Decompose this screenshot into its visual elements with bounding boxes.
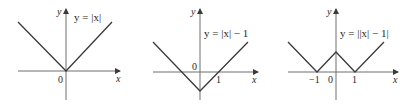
y-axis-label: y (56, 6, 62, 17)
y-axis-label: y (326, 6, 332, 17)
equation-label: y = ||x| − 1| (340, 27, 389, 39)
tick-label-neg-one: −1 (309, 74, 320, 85)
panel-abs-x-minus-1: y x 0 1 y = |x| − 1 (153, 6, 258, 100)
equation-label: y = |x| − 1 (204, 27, 248, 39)
origin-label: 0 (192, 61, 197, 72)
curve-abs-x (18, 22, 112, 71)
y-axis-label: y (190, 6, 196, 17)
tick-label-one: 1 (352, 74, 357, 85)
x-axis-label: x (251, 74, 257, 85)
tick-label-one: 1 (216, 74, 221, 85)
panel-abs-abs-x-minus-1: y x −1 0 1 y = ||x| − 1| (288, 6, 398, 100)
origin-label: 0 (58, 74, 63, 85)
panel-abs-x: y x 0 y = |x| (18, 6, 121, 100)
origin-label: 0 (328, 74, 333, 85)
x-axis-label: x (392, 74, 398, 85)
equation-label: y = |x| (74, 11, 101, 23)
absolute-value-graphs-figure: y x 0 y = |x| y x 0 1 y = |x| − 1 y x −1… (0, 0, 417, 105)
x-axis-label: x (115, 73, 121, 84)
